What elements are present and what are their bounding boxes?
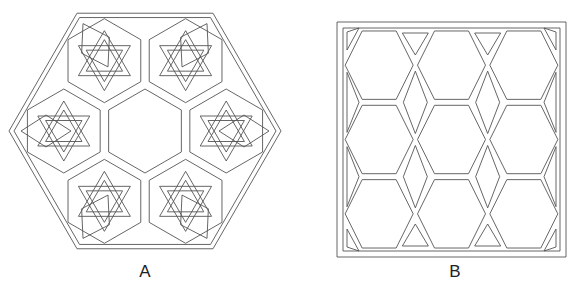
hexagon-opening [418, 180, 486, 248]
rhombus-opening [403, 71, 427, 133]
triangle-opening-right [544, 229, 556, 251]
star-of-david-icon [160, 171, 212, 231]
hexagon-opening [418, 105, 486, 173]
star-upward-triangle [78, 171, 130, 216]
hexagon-opening [345, 180, 413, 248]
hexagon-opening [490, 105, 558, 173]
diagram-canvas [0, 0, 570, 293]
star-of-david-icon [38, 101, 90, 161]
figure-b-label: B [440, 262, 470, 282]
rhombus-opening [476, 145, 500, 207]
hexagon-opening [345, 105, 413, 173]
rhombus-opening [476, 71, 500, 133]
figure-a-label: A [130, 262, 160, 282]
triangle-opening-right [544, 28, 556, 50]
square-frame-outer-edge [337, 22, 566, 257]
rhombus-opening [403, 145, 427, 207]
center-hexagon-opening [109, 89, 182, 173]
star-of-david-icon [160, 31, 212, 91]
figure-a-hexagon-star-lattice [9, 13, 281, 249]
star-upward-triangle [160, 171, 212, 216]
square-frame-inner-edge [343, 28, 560, 251]
star-upward-triangle [78, 31, 130, 76]
figure-b-square-hexagon-lattice [337, 22, 566, 257]
hexagon-opening [345, 31, 413, 99]
triangle-opening-left [347, 229, 359, 251]
star-of-david-icon [78, 171, 130, 231]
star-of-david-icon [200, 101, 252, 161]
hexagon-opening [490, 180, 558, 248]
triangle-opening-left [347, 28, 359, 50]
hexagon-opening [490, 31, 558, 99]
star-upward-triangle [160, 31, 212, 76]
star-upward-triangle [200, 101, 252, 146]
star-upward-triangle [38, 101, 90, 146]
hexagon-opening [418, 31, 486, 99]
star-of-david-icon [78, 31, 130, 91]
